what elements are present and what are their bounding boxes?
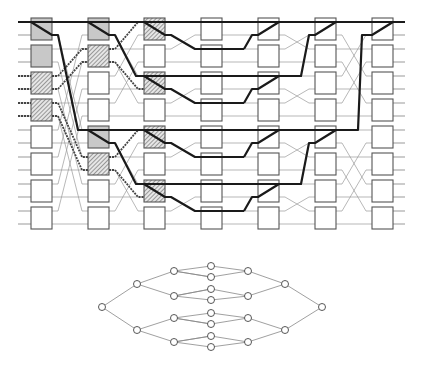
tree-edge — [137, 330, 174, 342]
tree-edge — [211, 296, 248, 300]
tree-edge — [137, 284, 174, 296]
tree-edge — [174, 289, 211, 296]
tree-node — [171, 339, 178, 346]
tree-edge — [248, 330, 285, 342]
tree-edge — [211, 336, 248, 342]
tree-edge — [211, 271, 248, 277]
tree-edge — [174, 318, 211, 324]
tree-edge — [174, 296, 211, 300]
tree-edge — [285, 307, 322, 330]
diagram-canvas — [0, 0, 424, 369]
tree-edge — [211, 342, 248, 347]
tree-node — [208, 274, 215, 281]
tree-edge — [174, 336, 211, 342]
tree-node — [245, 315, 252, 322]
tree-node — [208, 263, 215, 270]
tree-edge — [137, 318, 174, 330]
tree-node — [282, 327, 289, 334]
tree-edge — [211, 313, 248, 318]
tree-edge — [137, 271, 174, 284]
tree-edge — [285, 284, 322, 307]
binary-tree-graph — [0, 0, 424, 369]
tree-edge — [248, 284, 285, 296]
tree-node — [134, 327, 141, 334]
tree-node — [208, 286, 215, 293]
tree-node — [171, 315, 178, 322]
tree-node — [319, 304, 326, 311]
tree-node — [245, 293, 252, 300]
tree-edge — [248, 271, 285, 284]
tree-edge — [102, 284, 137, 307]
tree-edge — [174, 266, 211, 271]
tree-node — [208, 310, 215, 317]
tree-node — [134, 281, 141, 288]
tree-node — [171, 268, 178, 275]
tree-node — [171, 293, 178, 300]
tree-node — [245, 268, 252, 275]
tree-node — [99, 304, 106, 311]
tree-edge — [174, 313, 211, 318]
tree-node — [245, 339, 252, 346]
tree-node — [208, 333, 215, 340]
tree-node — [208, 344, 215, 351]
tree-edge — [174, 271, 211, 277]
tree-edge — [211, 289, 248, 296]
tree-edge — [102, 307, 137, 330]
tree-node — [208, 297, 215, 304]
tree-edge — [248, 318, 285, 330]
tree-edge — [211, 266, 248, 271]
tree-node — [208, 321, 215, 328]
tree-edge — [174, 342, 211, 347]
tree-node — [282, 281, 289, 288]
tree-edge — [211, 318, 248, 324]
